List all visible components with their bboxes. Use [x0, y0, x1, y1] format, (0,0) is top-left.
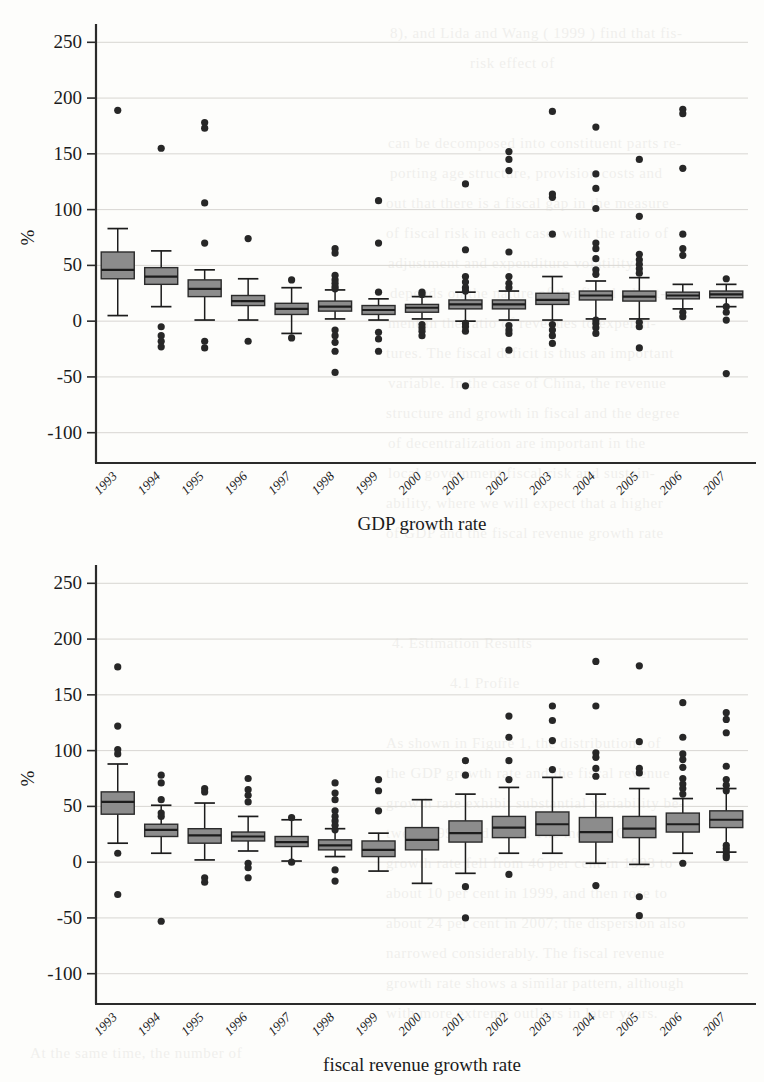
x-tick-label: 1998 [308, 1009, 337, 1038]
y-tick-label: -100 [47, 963, 82, 984]
outlier-point [375, 807, 382, 814]
outlier-point [592, 330, 599, 337]
outlier-point [462, 883, 469, 890]
x-tick-label: 1994 [134, 468, 163, 497]
box-iqr [362, 841, 395, 857]
outlier-point [418, 332, 425, 339]
outlier-point [505, 156, 512, 163]
outlier-point [679, 699, 686, 706]
y-tick-label: 250 [54, 572, 83, 593]
outlier-point [505, 347, 512, 354]
outlier-point [114, 107, 121, 114]
x-tick-label: 1996 [221, 1009, 250, 1038]
outlier-point [158, 343, 165, 350]
x-tick-label: 2006 [656, 468, 685, 497]
outlier-point [723, 716, 730, 723]
outlier-point [245, 775, 252, 782]
outlier-point [114, 891, 121, 898]
outlier-point [158, 813, 165, 820]
x-tick-label: 2000 [395, 1009, 424, 1038]
outlier-point [592, 123, 599, 130]
y-tick-label: 50 [63, 795, 82, 816]
x-axis-ticks: 1993199419951996199719981999200020012002… [91, 468, 729, 497]
outlier-point [505, 734, 512, 741]
outlier-point [505, 757, 512, 764]
outlier-point [636, 738, 643, 745]
outlier-point [114, 722, 121, 729]
outlier-point [679, 110, 686, 117]
outlier-point [418, 291, 425, 298]
y-tick-label: 100 [54, 199, 83, 220]
outlier-point [462, 772, 469, 779]
y-axis-ticks: 250200150100500-50-100 [47, 31, 96, 442]
outlier-point [375, 348, 382, 355]
boxplot-fiscal-revenue-growth: 250200150100500-50-100%19931994199519961… [0, 541, 764, 1082]
x-tick-label: 2007 [699, 468, 728, 497]
x-tick-label: 2005 [612, 468, 641, 497]
outlier-point [679, 764, 686, 771]
outlier-point [201, 879, 208, 886]
y-axis-label: % [17, 770, 38, 786]
outlier-point [288, 276, 295, 283]
box-group-1994 [145, 772, 178, 925]
x-axis-title: fiscal revenue growth rate [323, 1054, 521, 1075]
outlier-point [679, 165, 686, 172]
outlier-point [549, 717, 556, 724]
box-group-2006 [666, 699, 699, 867]
outlier-point [592, 245, 599, 252]
outlier-point [592, 255, 599, 262]
outlier-point [549, 702, 556, 709]
box-group-2001 [449, 180, 482, 389]
outlier-point [331, 348, 338, 355]
outlier-point [462, 914, 469, 921]
x-tick-label: 2004 [569, 468, 598, 497]
outlier-point [592, 271, 599, 278]
outlier-point [201, 344, 208, 351]
outlier-point [636, 912, 643, 919]
box-iqr [449, 821, 482, 842]
outlier-point [158, 796, 165, 803]
outlier-point [679, 734, 686, 741]
box-iqr [666, 813, 699, 832]
box-group-2004 [579, 123, 612, 337]
outlier-point [375, 776, 382, 783]
box-group-1994 [145, 145, 178, 351]
box-group-1998 [319, 245, 352, 376]
boxplot-gdp-growth: 250200150100500-50-100%19931994199519961… [0, 0, 764, 541]
figure-fiscal-revenue-growth-rate: 250200150100500-50-100%19931994199519961… [0, 541, 764, 1082]
outlier-point [723, 275, 730, 282]
outlier-point [201, 199, 208, 206]
outlier-point [331, 866, 338, 873]
outlier-point [462, 757, 469, 764]
box-group-1996 [232, 235, 265, 345]
outlier-point [679, 245, 686, 252]
x-tick-label: 1999 [352, 468, 381, 497]
outlier-point [505, 871, 512, 878]
outlier-point [375, 329, 382, 336]
outlier-point [636, 344, 643, 351]
outlier-point [549, 737, 556, 744]
x-tick-label: 2003 [526, 468, 555, 497]
outlier-point [331, 878, 338, 885]
outlier-point [201, 788, 208, 795]
x-tick-label: 2000 [395, 468, 424, 497]
outlier-point [636, 213, 643, 220]
outlier-point [549, 332, 556, 339]
x-tick-label: 1994 [134, 1009, 163, 1038]
outlier-point [636, 893, 643, 900]
box-iqr [536, 293, 569, 304]
box-group-2002 [492, 712, 525, 878]
outlier-point [505, 284, 512, 291]
y-tick-label: -50 [57, 366, 82, 387]
outlier-point [375, 197, 382, 204]
box-group-1998 [319, 779, 352, 884]
outlier-point [679, 756, 686, 763]
outlier-point [549, 766, 556, 773]
x-tick-label: 2006 [656, 1009, 685, 1038]
box-iqr [623, 816, 656, 837]
outlier-point [462, 287, 469, 294]
box-iqr [579, 818, 612, 843]
outlier-point [592, 702, 599, 709]
outlier-point [245, 798, 252, 805]
outlier-point [158, 772, 165, 779]
